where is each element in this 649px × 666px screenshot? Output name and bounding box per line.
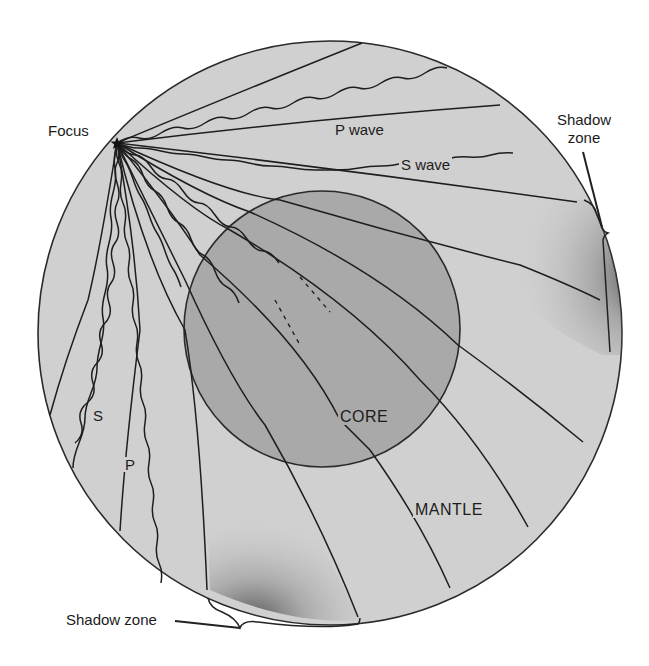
earth-cross-section [0,0,649,666]
p-short-label: P [123,457,137,472]
focus-label: Focus [48,123,89,138]
shadow-zone-right-line1: Shadow [536,112,632,127]
shadow-zone-right-label: Shadow zone [536,112,632,145]
p-wave-label: P wave [333,122,386,137]
s-wave-label: S wave [399,157,452,172]
seismic-diagram: Focus P wave S wave Shadow zone Shadow z… [0,0,649,666]
core-label: CORE [338,409,390,425]
shadow-zone-bottom-label: Shadow zone [66,612,157,627]
s-short-label: S [91,408,105,423]
core [184,191,460,467]
shadow-zone-right-line2: zone [536,130,632,145]
mantle-label: MANTLE [413,502,485,518]
